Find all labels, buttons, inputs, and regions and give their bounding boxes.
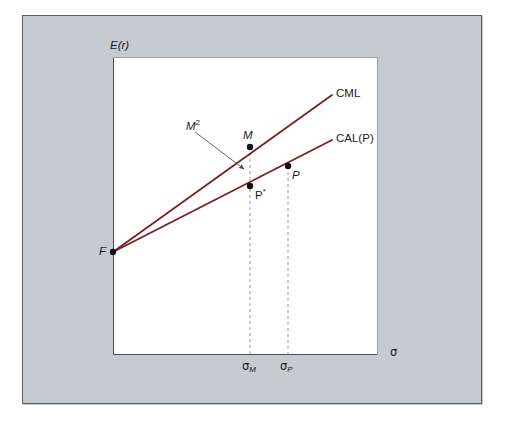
annotation-m-squared-exponent: 2 [196, 118, 200, 127]
y-axis-label: E(r) [110, 40, 129, 52]
x-tick-sigma-p-sub: P [287, 365, 292, 374]
point-marker-f [110, 249, 116, 255]
m-squared-leader-arrow [195, 132, 244, 169]
annotation-m-squared: M2 [186, 119, 200, 133]
annotation-point-m: M [243, 130, 253, 142]
legend-label-cml: CML [336, 88, 360, 100]
x-tick-sigma-p: σP [280, 361, 293, 374]
annotation-m-squared-base: M [186, 120, 196, 132]
annotation-point-p: P [292, 170, 300, 182]
legend-cal-prefix: CAL( [336, 132, 362, 144]
point-marker-m [247, 144, 253, 150]
x-tick-sigma-m-sub: M [249, 365, 256, 374]
annotation-point-f: F [99, 246, 106, 258]
figure-canvas: E(r) σ σM σP CML CAL(P) M2 M P* P F [0, 0, 505, 423]
legend-label-cal-p: CAL(P) [336, 133, 374, 145]
legend-cal-suffix: ) [370, 132, 374, 144]
point-marker-p [285, 163, 291, 169]
x-axis-label: σ [390, 347, 397, 359]
chart-overlay [0, 0, 505, 423]
annotation-point-p-star-mark: * [263, 187, 266, 196]
point-marker-p-star [247, 183, 253, 189]
x-tick-sigma-m: σM [242, 361, 256, 374]
legend-cal-portfolio: P [362, 132, 370, 144]
annotation-point-p-star: P* [255, 188, 266, 202]
annotation-point-p-star-base: P [255, 189, 263, 201]
cal-p-line [113, 140, 332, 252]
